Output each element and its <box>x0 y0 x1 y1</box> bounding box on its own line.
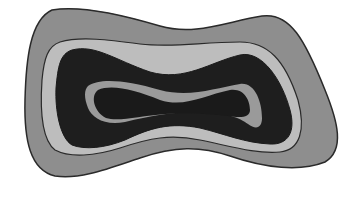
contour-figure <box>0 0 364 198</box>
